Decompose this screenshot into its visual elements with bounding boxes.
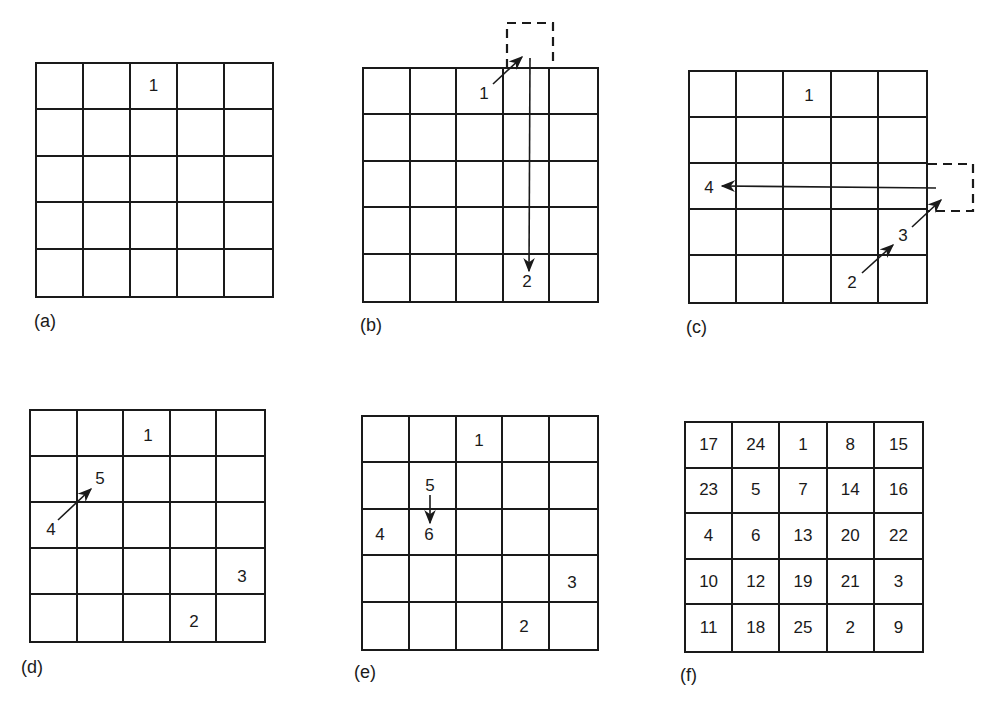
cell: 1 bbox=[780, 423, 827, 469]
cell bbox=[217, 595, 264, 641]
cell bbox=[550, 417, 597, 463]
number-1: 1 bbox=[479, 84, 488, 104]
cell: 18 bbox=[733, 605, 780, 651]
number-3: 3 bbox=[898, 226, 907, 246]
cell bbox=[225, 250, 272, 296]
cell bbox=[832, 72, 879, 118]
cell bbox=[690, 72, 737, 118]
cell bbox=[457, 510, 504, 556]
cell bbox=[457, 463, 504, 509]
cell bbox=[504, 115, 551, 161]
cell bbox=[84, 110, 131, 156]
cell: 21 bbox=[828, 560, 875, 606]
cell: 8 bbox=[828, 423, 875, 469]
cell: 23 bbox=[686, 469, 733, 515]
cell bbox=[784, 256, 831, 302]
cell bbox=[364, 162, 411, 208]
number-1: 1 bbox=[804, 86, 813, 106]
cell bbox=[879, 72, 926, 118]
cell bbox=[363, 463, 410, 509]
number-2: 2 bbox=[847, 273, 856, 293]
cell bbox=[411, 208, 458, 254]
cell bbox=[178, 110, 225, 156]
cell bbox=[178, 203, 225, 249]
number-6: 6 bbox=[424, 525, 433, 545]
cell bbox=[37, 64, 84, 110]
cell bbox=[690, 118, 737, 164]
cell bbox=[124, 503, 171, 549]
cell bbox=[832, 164, 879, 210]
panel-label-d: (d) bbox=[21, 657, 43, 678]
dashed-cell-outline bbox=[928, 164, 973, 211]
cell: 9 bbox=[875, 605, 922, 651]
cell bbox=[832, 118, 879, 164]
cell bbox=[84, 250, 131, 296]
cell bbox=[217, 503, 264, 549]
cell bbox=[737, 72, 784, 118]
dashed-cell-outline bbox=[507, 23, 553, 68]
cell bbox=[457, 115, 504, 161]
cell bbox=[363, 510, 410, 556]
cell bbox=[550, 603, 597, 649]
number-5: 5 bbox=[95, 469, 104, 489]
cell bbox=[411, 255, 458, 301]
cell bbox=[217, 411, 264, 457]
cell: 22 bbox=[875, 514, 922, 560]
cell: 1 bbox=[131, 64, 178, 110]
cell bbox=[171, 503, 218, 549]
cell bbox=[832, 210, 879, 256]
cell bbox=[84, 157, 131, 203]
cell bbox=[879, 256, 926, 302]
cell bbox=[503, 556, 550, 602]
panel-label-f: (f) bbox=[680, 665, 697, 686]
cell bbox=[550, 208, 597, 254]
cell: 5 bbox=[733, 469, 780, 515]
cell: 3 bbox=[875, 560, 922, 606]
cell: 2 bbox=[828, 605, 875, 651]
cell bbox=[178, 250, 225, 296]
cell bbox=[78, 549, 125, 595]
cell: 14 bbox=[828, 469, 875, 515]
cell bbox=[84, 64, 131, 110]
cell: 10 bbox=[686, 560, 733, 606]
cell bbox=[784, 210, 831, 256]
cell bbox=[171, 411, 218, 457]
panel-label-c: (c) bbox=[686, 317, 707, 338]
cell: 15 bbox=[875, 423, 922, 469]
cell: 17 bbox=[686, 423, 733, 469]
cell bbox=[503, 463, 550, 509]
cell bbox=[411, 162, 458, 208]
cell bbox=[364, 69, 411, 115]
cell bbox=[879, 164, 926, 210]
cell bbox=[737, 210, 784, 256]
cell bbox=[124, 595, 171, 641]
cell bbox=[31, 457, 78, 503]
cell bbox=[171, 457, 218, 503]
grid-a: 1 bbox=[35, 62, 274, 298]
cell bbox=[504, 69, 551, 115]
cell bbox=[31, 595, 78, 641]
cell bbox=[131, 250, 178, 296]
number-1: 1 bbox=[474, 431, 483, 451]
cell bbox=[550, 162, 597, 208]
cell bbox=[504, 162, 551, 208]
cell: 25 bbox=[780, 605, 827, 651]
cell bbox=[503, 417, 550, 463]
cell bbox=[78, 503, 125, 549]
cell bbox=[784, 164, 831, 210]
panel-label-e: (e) bbox=[354, 662, 376, 683]
cell bbox=[124, 457, 171, 503]
cell bbox=[550, 510, 597, 556]
cell bbox=[784, 118, 831, 164]
cell bbox=[737, 256, 784, 302]
cell bbox=[550, 115, 597, 161]
grid-f-magic-square: 17 24 1 8 15 23 5 7 14 16 4 6 13 20 22 1… bbox=[684, 421, 924, 653]
cell bbox=[410, 603, 457, 649]
cell bbox=[364, 208, 411, 254]
cell: 7 bbox=[780, 469, 827, 515]
cell: 4 bbox=[686, 514, 733, 560]
cell bbox=[124, 549, 171, 595]
cell bbox=[37, 203, 84, 249]
number-2: 2 bbox=[189, 612, 198, 632]
cell bbox=[879, 118, 926, 164]
